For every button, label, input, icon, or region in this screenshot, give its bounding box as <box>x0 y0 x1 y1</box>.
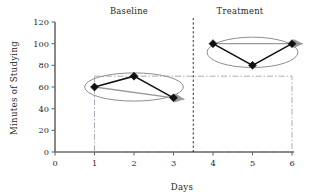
x-axis-title: Days <box>171 182 193 192</box>
x-axis-ticks: 0123456 <box>52 152 294 168</box>
y-tick-label: 120 <box>33 17 49 27</box>
phase-label-baseline: Baseline <box>110 6 148 16</box>
x-tick-label: 4 <box>210 158 215 168</box>
data-point-marker <box>249 61 257 69</box>
y-tick-label: 20 <box>39 125 49 135</box>
y-tick-label: 40 <box>39 104 49 114</box>
chart-container: 020406080100120 0123456 Days Minutes of … <box>0 0 322 194</box>
x-tick-label: 1 <box>92 158 97 168</box>
reference-rectangle <box>95 76 293 152</box>
y-tick-label: 100 <box>33 39 49 49</box>
single-subject-line-chart: 020406080100120 0123456 Days Minutes of … <box>0 0 322 194</box>
x-tick-label: 3 <box>171 158 176 168</box>
x-tick-label: 6 <box>289 158 294 168</box>
x-tick-label: 2 <box>131 158 136 168</box>
x-tick-label: 0 <box>52 158 57 168</box>
y-tick-label: 80 <box>39 60 49 70</box>
y-tick-label: 0 <box>44 147 49 157</box>
y-axis-ticks: 020406080100120 <box>33 17 55 157</box>
y-axis-title: Minutes of Studying <box>9 41 19 135</box>
envelope-ellipses <box>85 37 298 101</box>
x-tick-label: 5 <box>250 158 255 168</box>
data-point-marker <box>91 83 99 91</box>
trend-arrows <box>95 39 304 103</box>
phase-label-treatment: Treatment <box>217 6 264 16</box>
y-tick-label: 60 <box>39 82 49 92</box>
